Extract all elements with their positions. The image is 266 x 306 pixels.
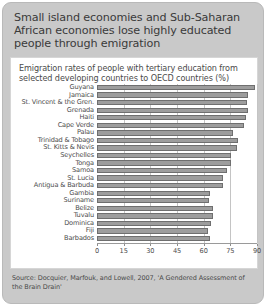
bar-track bbox=[97, 227, 257, 235]
bar-row: Samoa bbox=[11, 167, 257, 175]
bar-track bbox=[97, 212, 257, 220]
bar-rows: GuyanaJamaicaSt. Vincent & the Gren.Gren… bbox=[11, 84, 257, 242]
bar bbox=[97, 191, 210, 196]
tick-label: 30 bbox=[146, 247, 154, 255]
chart-panel: Emigration rates of people with tertiary… bbox=[10, 57, 258, 269]
tick-mark bbox=[177, 244, 178, 246]
source-note: Source: Docquier, Marfouk, and Lowell, 2… bbox=[12, 274, 256, 291]
figure-container: Small island economies and Sub-Saharan A… bbox=[0, 0, 266, 306]
bar-track bbox=[97, 175, 257, 183]
bar bbox=[97, 145, 237, 150]
bar-row: St. Vincent & the Gren. bbox=[11, 99, 257, 107]
tick-label: 60 bbox=[200, 247, 208, 255]
bar-row: Fiji bbox=[11, 227, 257, 235]
bar-row: Seychelles bbox=[11, 152, 257, 160]
bar bbox=[97, 183, 223, 188]
bar-track bbox=[97, 114, 257, 122]
bar-row: Tonga bbox=[11, 159, 257, 167]
bar bbox=[97, 236, 210, 241]
tick-mark bbox=[230, 244, 231, 246]
bar bbox=[97, 108, 248, 113]
bar bbox=[97, 130, 233, 135]
bar-row: Dominica bbox=[11, 220, 257, 228]
bar-track bbox=[97, 190, 257, 198]
bar bbox=[97, 213, 213, 218]
bar-track bbox=[97, 92, 257, 100]
tick-label: 0 bbox=[95, 247, 99, 255]
bar-track bbox=[97, 197, 257, 205]
tick-mark bbox=[257, 244, 258, 246]
bar-row: Suriname bbox=[11, 197, 257, 205]
bar-track bbox=[97, 152, 257, 160]
bar bbox=[97, 123, 244, 128]
bar bbox=[97, 206, 213, 211]
bar-category-label: Barbados bbox=[11, 235, 97, 242]
bar-track bbox=[97, 144, 257, 152]
tick-mark bbox=[204, 244, 205, 246]
chart-title: Emigration rates of people with tertiary… bbox=[11, 58, 257, 84]
bar-row: St. Kitts & Nevis bbox=[11, 144, 257, 152]
bar-track bbox=[97, 84, 257, 92]
bar bbox=[97, 138, 238, 143]
bar bbox=[97, 153, 231, 158]
tick-mark bbox=[97, 244, 98, 246]
tick-label: 75 bbox=[226, 247, 234, 255]
bar bbox=[97, 198, 209, 203]
bar-track bbox=[97, 182, 257, 190]
bar-track bbox=[97, 159, 257, 167]
bar-row: Gambia bbox=[11, 190, 257, 198]
bar-track bbox=[97, 122, 257, 130]
bar-track bbox=[97, 220, 257, 228]
bar-category-label: Dominica bbox=[11, 220, 97, 227]
bar-track bbox=[97, 107, 257, 115]
tick-label: 15 bbox=[120, 247, 128, 255]
tick-mark bbox=[124, 244, 125, 246]
bar bbox=[97, 115, 246, 120]
bar-track bbox=[97, 137, 257, 145]
bar bbox=[97, 100, 247, 105]
bar bbox=[97, 221, 211, 226]
bar-track bbox=[97, 167, 257, 175]
bar bbox=[97, 175, 223, 180]
plot-area: GuyanaJamaicaSt. Vincent & the Gren.Gren… bbox=[11, 84, 257, 268]
bar-row: Tuvalu bbox=[11, 212, 257, 220]
tick-label: 45 bbox=[173, 247, 181, 255]
figure-frame: Small island economies and Sub-Saharan A… bbox=[2, 2, 264, 304]
bar bbox=[97, 228, 208, 233]
tick-label: 90 bbox=[253, 247, 261, 255]
bar-row: Haiti bbox=[11, 114, 257, 122]
bar-row: Grenada bbox=[11, 107, 257, 115]
bar-track bbox=[97, 235, 257, 243]
bar-row: Cape Verde bbox=[11, 122, 257, 130]
bar bbox=[97, 168, 227, 173]
bar-row: Guyana bbox=[11, 84, 257, 92]
bar-track bbox=[97, 205, 257, 213]
bar-track bbox=[97, 129, 257, 137]
bar-track bbox=[97, 99, 257, 107]
tick-mark bbox=[150, 244, 151, 246]
figure-headline: Small island economies and Sub-Saharan A… bbox=[3, 3, 263, 58]
bar bbox=[97, 160, 231, 165]
bar-row: Barbados bbox=[11, 235, 257, 243]
gridline bbox=[257, 84, 258, 243]
bar-row: Antigua & Barbuda bbox=[11, 182, 257, 190]
bar-row: Belize bbox=[11, 205, 257, 213]
bar bbox=[97, 92, 248, 97]
bar bbox=[97, 85, 255, 90]
